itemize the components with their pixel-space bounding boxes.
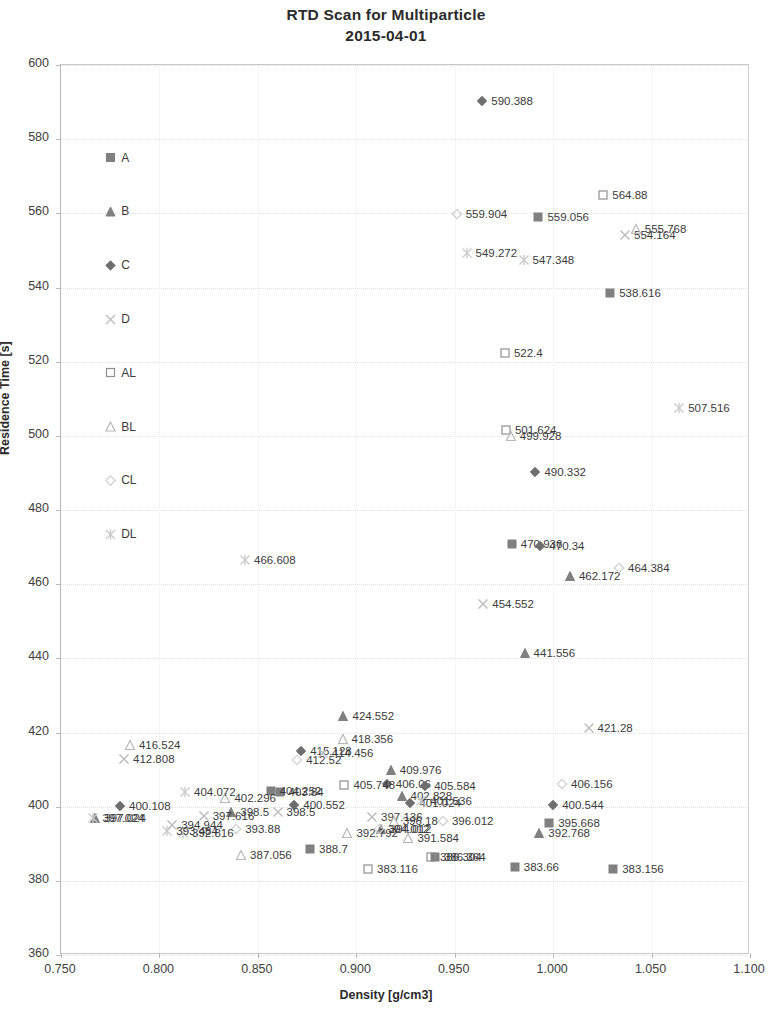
filled-triangle-icon	[105, 206, 116, 217]
legend-item-label: B	[121, 204, 129, 218]
data-point-label: 564.88	[612, 189, 647, 201]
open-diamond-marker	[292, 755, 303, 766]
y-tick-label: 600	[0, 56, 49, 70]
y-tick-mark	[56, 436, 61, 437]
filled-diamond-marker	[548, 799, 559, 810]
legend-item-label: D	[121, 312, 130, 326]
data-point-label: 555.768	[645, 223, 687, 235]
data-point-label: 396.012	[452, 815, 494, 827]
star-x-marker	[416, 795, 427, 806]
legend-item-label: CL	[121, 473, 136, 487]
open-diamond-marker	[614, 562, 625, 573]
open-triangle-icon	[105, 421, 116, 432]
star-x-marker	[162, 825, 173, 836]
x-tick-mark	[553, 953, 554, 958]
legend-item-b[interactable]: B	[105, 204, 129, 218]
x-tick-mark	[750, 953, 751, 958]
filled-square-marker	[533, 211, 544, 222]
legend-item-label: C	[121, 258, 130, 272]
open-triangle-marker	[236, 849, 247, 860]
data-point-label: 507.516	[688, 402, 730, 414]
data-point-label: 441.556	[534, 647, 576, 659]
data-point-label: 470.34	[549, 540, 584, 552]
y-tick-label: 400	[0, 798, 49, 812]
y-tick-mark	[56, 139, 61, 140]
filled-square-icon	[105, 152, 116, 163]
filled-triangle-marker	[338, 710, 349, 721]
legend-item-label: DL	[121, 527, 136, 541]
filled-diamond-marker	[420, 780, 431, 791]
data-point-label: 394.012	[388, 823, 430, 835]
y-tick-label: 560	[0, 204, 49, 218]
open-square-marker	[598, 190, 609, 201]
star-x-marker	[674, 402, 685, 413]
legend-item-c[interactable]: C	[105, 258, 130, 272]
legend-item-cl[interactable]: CL	[105, 473, 136, 487]
x-gridline	[652, 65, 653, 953]
open-diamond-icon	[105, 475, 116, 486]
data-point-label: 538.616	[619, 287, 661, 299]
legend-item-d[interactable]: D	[105, 312, 130, 326]
data-point-label: 397.024	[102, 812, 144, 824]
x-tick-mark	[159, 953, 160, 958]
y-gridline	[61, 65, 748, 66]
data-point-label: 499.928	[520, 430, 562, 442]
y-tick-mark	[56, 733, 61, 734]
data-point-label: 400.108	[129, 800, 171, 812]
data-point-label: 383.66	[524, 861, 559, 873]
open-diamond-marker	[437, 816, 448, 827]
filled-square-marker	[605, 287, 616, 298]
cross-x-marker	[367, 812, 378, 823]
data-point-label: 388.7	[319, 843, 348, 855]
open-diamond-marker	[451, 208, 462, 219]
data-point-label: 424.552	[352, 710, 394, 722]
y-gridline	[61, 213, 748, 214]
data-point-label: 412.52	[306, 754, 341, 766]
cross-x-marker	[272, 807, 283, 818]
chart-title-line2: 2015-04-01	[0, 25, 772, 46]
y-tick-mark	[56, 65, 61, 66]
data-point-label: 549.272	[476, 247, 518, 259]
y-gridline	[61, 510, 748, 511]
x-tick-label: 0.850	[222, 962, 292, 976]
legend-item-al[interactable]: AL	[105, 366, 136, 380]
legend-item-bl[interactable]: BL	[105, 420, 136, 434]
data-point-label: 559.056	[547, 211, 589, 223]
legend-item-dl[interactable]: DL	[105, 527, 136, 541]
y-gridline	[61, 362, 748, 363]
data-point-label: 398.5	[287, 806, 316, 818]
data-point-label: 405.584	[434, 780, 476, 792]
data-point-label: 392.768	[548, 827, 590, 839]
filled-triangle-marker	[564, 571, 575, 582]
data-point-label: 490.332	[544, 466, 586, 478]
x-tick-label: 0.900	[320, 962, 390, 976]
data-point-label: 464.384	[628, 562, 670, 574]
data-point-label: 383.116	[377, 863, 418, 875]
filled-square-marker	[608, 864, 619, 875]
star-x-icon	[105, 529, 116, 540]
open-triangle-marker	[337, 733, 348, 744]
open-triangle-marker	[342, 828, 353, 839]
open-triangle-marker	[630, 224, 641, 235]
cross-x-icon	[105, 314, 116, 325]
star-x-marker	[180, 786, 191, 797]
x-gridline	[258, 65, 259, 953]
cross-x-marker	[583, 722, 594, 733]
legend-item-a[interactable]: A	[105, 151, 129, 165]
y-tick-mark	[56, 362, 61, 363]
data-point-label: 393.484	[176, 825, 218, 837]
open-square-marker	[499, 347, 510, 358]
data-point-label: 466.608	[254, 554, 296, 566]
filled-square-marker	[509, 862, 520, 873]
plot-area: 559.056538.616470.936403.84404.252395.66…	[60, 64, 749, 954]
filled-diamond-marker	[535, 540, 546, 551]
y-tick-label: 540	[0, 279, 49, 293]
y-tick-label: 420	[0, 724, 49, 738]
data-point-label: 416.524	[139, 739, 181, 751]
data-point-label: 547.348	[533, 254, 575, 266]
y-gridline	[61, 584, 748, 585]
data-point-label: 406.156	[571, 778, 613, 790]
x-tick-mark	[652, 953, 653, 958]
x-tick-label: 0.800	[123, 962, 193, 976]
data-point-label: 402.296	[234, 792, 276, 804]
